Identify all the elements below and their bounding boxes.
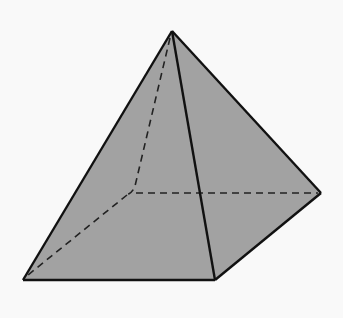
pyramid-diagram <box>0 0 343 318</box>
